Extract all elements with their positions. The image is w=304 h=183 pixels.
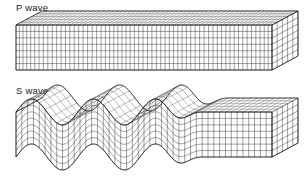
s-wave-block: [16, 85, 298, 170]
s-wave-label: S wave: [16, 85, 48, 96]
seismic-wave-figure: P wave S wave: [0, 0, 304, 183]
p-wave-label: P wave: [16, 2, 48, 13]
p-wave-block: [16, 11, 298, 70]
